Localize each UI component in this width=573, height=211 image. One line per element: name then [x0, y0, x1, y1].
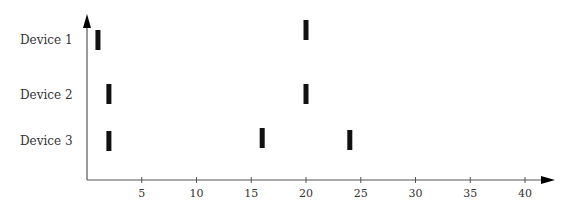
device-label: Device 1 — [20, 33, 73, 47]
x-tick-label: 30 — [409, 187, 423, 200]
x-tick-label: 40 — [518, 187, 532, 200]
x-tick-label: 35 — [463, 187, 477, 200]
x-tick-label: 25 — [354, 187, 368, 200]
device-label: Device 2 — [20, 88, 73, 102]
x-axis-arrow-icon — [541, 176, 555, 184]
device-labels: Device 1Device 2Device 3 — [20, 33, 73, 148]
x-tick-label: 5 — [138, 187, 145, 200]
x-tick-label: 20 — [299, 187, 313, 200]
event-marker — [106, 131, 111, 151]
device-timeline-chart: 510152025303540 Device 1Device 2Device 3 — [0, 0, 573, 211]
event-markers — [95, 20, 352, 151]
event-marker — [304, 84, 309, 104]
axes — [83, 14, 555, 184]
device-label: Device 3 — [20, 134, 73, 148]
event-marker — [347, 130, 352, 150]
event-marker — [95, 30, 100, 50]
event-marker — [304, 20, 309, 40]
event-marker — [260, 128, 265, 148]
x-tick-label: 15 — [244, 187, 258, 200]
y-axis-arrow-icon — [83, 14, 91, 28]
x-tick-label: 10 — [190, 187, 204, 200]
event-marker — [106, 84, 111, 104]
